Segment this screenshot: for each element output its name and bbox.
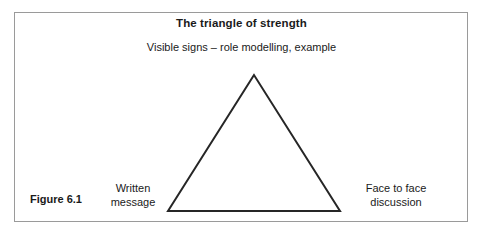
label-face-to-face-discussion: Face to face discussion: [350, 182, 442, 209]
figure-container: The triangle of strength Visible signs –…: [0, 0, 483, 236]
figure-caption: Figure 6.1: [30, 193, 82, 205]
label-written-message-line2: message: [104, 196, 162, 210]
label-face-to-face-line2: discussion: [350, 196, 442, 210]
label-written-message: Written message: [104, 182, 162, 209]
label-written-message-line1: Written: [104, 182, 162, 196]
triangle-shape: [168, 75, 340, 211]
label-face-to-face-line1: Face to face: [350, 182, 442, 196]
